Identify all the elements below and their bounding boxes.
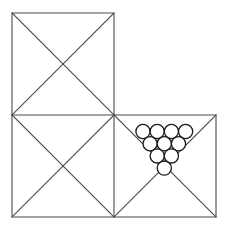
packed-circle-r3-c0 bbox=[157, 161, 171, 175]
figure-root bbox=[0, 0, 229, 233]
tromino-diagram bbox=[0, 0, 229, 233]
